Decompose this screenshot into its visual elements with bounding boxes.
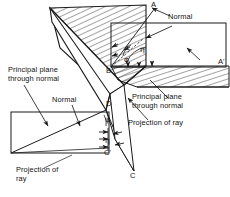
point-label-b: B — [106, 67, 111, 75]
leader-a-prime-plane — [187, 48, 200, 60]
label-normal-left: Normal — [52, 96, 76, 105]
label-normal-top: Normal — [168, 13, 192, 22]
lower-normal-line — [11, 110, 106, 153]
narrow-wedge-right-face — [110, 85, 134, 171]
point-label-a: A — [151, 1, 156, 9]
angle-label-psi-lower: ψ — [105, 116, 110, 124]
label-principal-plane-right: Principal plane through normal — [132, 93, 183, 110]
label-projection-right: Projection of ray — [128, 119, 183, 128]
lower-projection-line — [11, 148, 109, 153]
angle-label-phi-upper: φ — [124, 56, 129, 64]
hatched-base-plane — [111, 66, 229, 87]
leader-normal-left — [72, 105, 80, 126]
label-principal-plane-left: Principal plane through normal — [8, 66, 59, 83]
point-label-c-prime: C' — [104, 149, 111, 157]
narrow-wedge-lower — [106, 85, 134, 171]
angle-label-eta-upper: η — [140, 46, 145, 54]
angle-label-eta-lower: η — [105, 137, 110, 145]
point-label-c: C — [130, 172, 135, 180]
leader-normal-top — [146, 26, 172, 38]
point-label-d: D — [106, 100, 111, 108]
optics-ray-geometry-figure: A Normal A' B φ η Principal plane throug… — [0, 0, 230, 197]
point-label-a-prime: A' — [218, 58, 225, 66]
horizontal-hatched-plane — [111, 66, 229, 87]
label-projection-left: Projection of ray — [16, 166, 58, 183]
leader-principal-plane-left — [24, 85, 48, 126]
